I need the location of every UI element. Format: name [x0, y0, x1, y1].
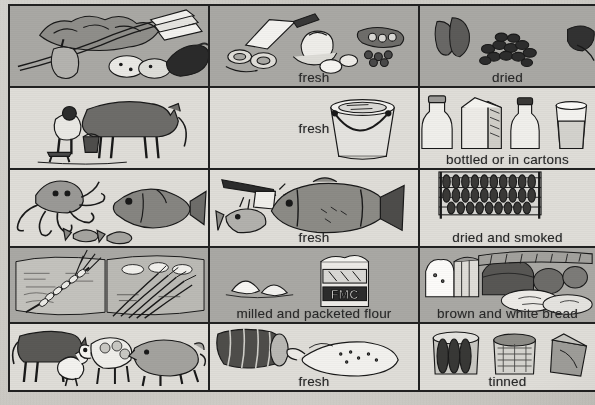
cell-vegetables-dried: dried — [420, 6, 595, 86]
table-row: fresh — [10, 88, 595, 170]
cell-meat-tinned: tinned — [420, 324, 595, 390]
cell-label: fresh — [210, 230, 418, 245]
cell-label: dried — [420, 70, 595, 85]
cell-cereal-flour: FMC milled and packeted flour — [210, 248, 420, 322]
cell-vegetables-fresh: fresh — [210, 6, 420, 86]
cell-label: fresh — [210, 121, 418, 136]
cell-label: dried and smoked — [420, 230, 595, 245]
cow-milking-illustration — [10, 88, 208, 168]
cell-cereal-bread: brown and white bread — [420, 248, 595, 322]
cell-fish-fresh: fresh — [210, 170, 420, 246]
cell-label: fresh — [210, 374, 418, 389]
cell-label: bottled or in cartons — [420, 152, 595, 167]
cell-vegetables-raw — [10, 6, 210, 86]
food-groups-table: fresh — [8, 4, 595, 392]
cell-label: milled and packeted flour — [210, 306, 418, 321]
cell-fish-dried-smoked: dried and smoked — [420, 170, 595, 246]
table-row: fresh — [10, 170, 595, 248]
cell-label: tinned — [420, 374, 595, 389]
table-row: fresh — [10, 324, 595, 390]
cell-milk-bottled: bottled or in cartons — [420, 88, 595, 168]
livestock-illustration — [10, 324, 208, 390]
cell-cereal-source — [10, 248, 210, 322]
cell-milk-source — [10, 88, 210, 168]
cell-meat-fresh: fresh — [210, 324, 420, 390]
cell-fish-source — [10, 170, 210, 246]
table-row: fresh — [10, 6, 595, 88]
scanned-page: fresh — [0, 0, 595, 405]
flour-brand-text: FMC — [331, 287, 359, 302]
octopus-fish-illustration — [10, 170, 208, 246]
cell-milk-fresh: fresh — [210, 88, 420, 168]
cell-label: fresh — [210, 70, 418, 85]
cell-meat-source — [10, 324, 210, 390]
vegetables-illustration — [10, 6, 208, 86]
wheat-rice-field-illustration — [10, 248, 208, 322]
table-row: FMC milled and packeted flour — [10, 248, 595, 324]
cell-label: brown and white bread — [420, 306, 595, 321]
